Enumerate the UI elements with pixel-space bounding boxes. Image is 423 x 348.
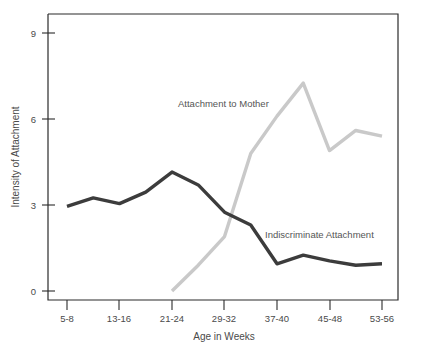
y-tick-label-9: 9 <box>31 28 36 39</box>
y-axis-labels: 9 6 3 0 <box>31 28 36 297</box>
y-axis-title: Intensity of Attachment <box>10 106 21 207</box>
plot-frame <box>48 14 398 300</box>
series-annotation-attachment-to-mother: Attachment to Mother <box>178 98 269 109</box>
x-tick-label-3: 29-32 <box>212 313 236 324</box>
series-line-attachment-to-mother <box>172 83 382 291</box>
x-axis-ticks <box>67 300 382 310</box>
x-axis-title: Age in Weeks <box>193 331 255 342</box>
x-tick-label-4: 37-40 <box>265 313 289 324</box>
x-tick-label-6: 53-56 <box>370 313 394 324</box>
x-tick-label-5: 45-48 <box>318 313 342 324</box>
chart-canvas: 9 6 3 0 Intensity of Attachment 5-8 13-1… <box>0 0 423 348</box>
x-tick-label-0: 5-8 <box>60 313 74 324</box>
x-axis-labels: 5-8 13-16 21-24 29-32 37-40 45-48 53-56 <box>60 313 394 324</box>
x-tick-label-2: 21-24 <box>160 313 184 324</box>
y-tick-label-0: 0 <box>31 286 36 297</box>
x-tick-label-1: 13-16 <box>107 313 131 324</box>
attachment-intensity-chart: 9 6 3 0 Intensity of Attachment 5-8 13-1… <box>0 0 423 348</box>
series-line-indiscriminate-attachment <box>67 172 382 265</box>
y-tick-label-3: 3 <box>31 200 36 211</box>
series-annotation-indiscriminate-attachment: Indiscriminate Attachment <box>265 229 374 240</box>
y-tick-label-6: 6 <box>31 114 36 125</box>
